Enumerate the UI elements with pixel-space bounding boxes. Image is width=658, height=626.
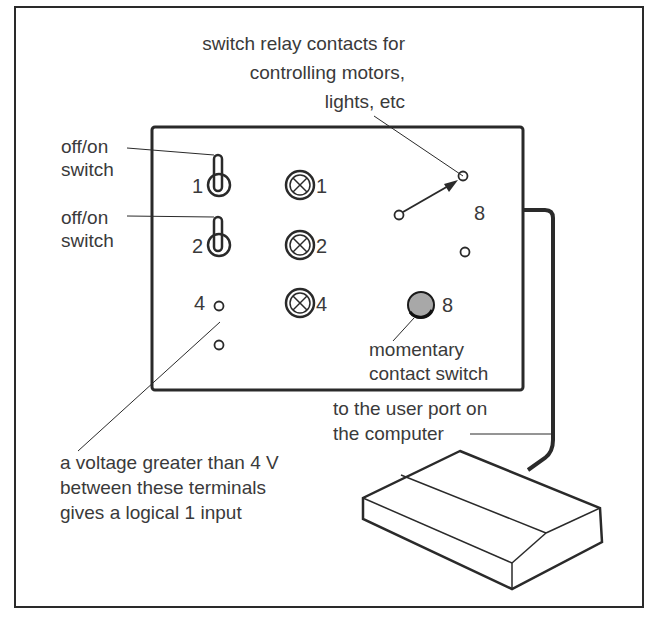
relay-arm <box>403 185 450 212</box>
switch1-label-line1: off/on <box>61 136 108 157</box>
voltage-label-line2: between these terminals <box>60 477 266 498</box>
relay-terminal-icon <box>461 248 470 257</box>
toggle-switch-icon <box>208 234 230 256</box>
button-number: 8 <box>442 294 453 316</box>
switch1-label-line2: switch <box>61 159 114 180</box>
momentary-button[interactable]: 8 <box>408 292 453 318</box>
port-label-line1: to the user port on <box>333 398 487 419</box>
relay-contacts: 8 <box>395 172 486 257</box>
lamp-1: 1 <box>286 171 327 199</box>
voltage-label-line1: a voltage greater than 4 V <box>60 452 279 473</box>
lamp4-number: 4 <box>316 293 327 315</box>
voltage-leader-line <box>78 322 220 451</box>
cable <box>523 210 553 470</box>
relay-number: 8 <box>474 202 485 224</box>
voltage-label-line3: gives a logical 1 input <box>60 502 242 523</box>
momentary-label-line1: momentary <box>369 339 465 360</box>
switch2-leader-line <box>127 216 214 217</box>
momentary-leader-line <box>393 318 414 341</box>
interface-box-diagram: switch relay contacts for controlling mo… <box>0 0 658 626</box>
lamp1-number: 1 <box>316 175 327 197</box>
relay-label-line2: controlling motors, <box>250 62 405 83</box>
switch2-label-line2: switch <box>61 230 114 251</box>
lamp-2: 2 <box>286 231 327 259</box>
interface-box <box>152 127 523 390</box>
computer <box>363 451 602 589</box>
relay-label-line1: switch relay contacts for <box>202 33 405 54</box>
toggle1-number: 1 <box>192 175 203 197</box>
port-label-line2: the computer <box>333 423 445 444</box>
relay-leader-line <box>374 116 463 176</box>
arrow-icon <box>444 180 458 192</box>
lamp2-number: 2 <box>316 235 327 257</box>
relay-label-line3: lights, etc <box>325 91 405 112</box>
toggle-switch-icon <box>208 174 230 196</box>
lamp-4: 4 <box>286 289 327 317</box>
switch1-leader-line <box>127 148 214 155</box>
terminal-icon <box>215 302 224 311</box>
momentary-label-line2: contact switch <box>369 363 488 384</box>
input-terminals: 4 <box>194 292 224 350</box>
toggle-switch-2[interactable]: 2 <box>192 217 230 257</box>
toggle2-number: 2 <box>192 235 203 257</box>
toggle-switch-1[interactable]: 1 <box>192 155 230 197</box>
terminal-icon <box>215 341 224 350</box>
input-terminal-number: 4 <box>194 292 205 314</box>
switch2-label-line1: off/on <box>61 207 108 228</box>
relay-terminal-icon <box>395 211 404 220</box>
